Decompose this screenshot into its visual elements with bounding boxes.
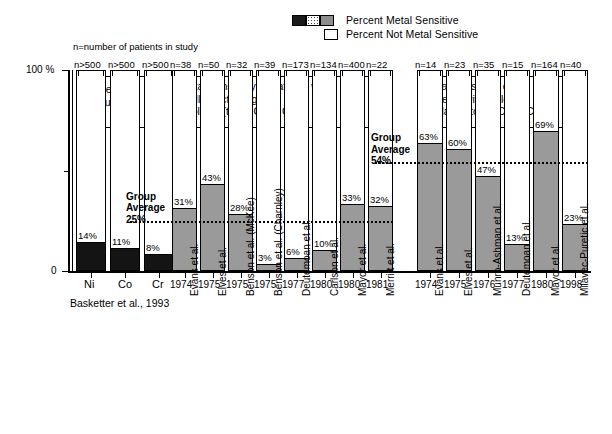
bar-column[interactable] [172, 70, 197, 271]
bar-value-label: 60% [448, 137, 467, 148]
x-author-label: Merritt et al. [385, 243, 396, 296]
group-average-line [130, 221, 393, 223]
bar-value-label: 8% [146, 242, 160, 253]
bar-n-tick [362, 70, 363, 76]
bar-value-label: 3% [258, 252, 272, 263]
bar-n-tick [78, 70, 79, 76]
bar-n-label: n=173 [282, 59, 309, 70]
x-author-label: Milavec-Puretic et al. [579, 203, 590, 296]
legend: Percent Metal Sensitive Percent Not Meta… [292, 14, 478, 42]
bar-n-tick [137, 70, 138, 76]
x-tick [325, 273, 326, 278]
group-average-label: Group Average 25% [126, 191, 165, 226]
bar-n-label: n=164 [531, 59, 558, 70]
bar-n-tick [506, 70, 507, 76]
bar-n-tick [174, 70, 175, 76]
y-axis-top-label: 100 % [26, 64, 54, 75]
bar-fill-sensitive [77, 242, 105, 270]
x-tick [488, 273, 489, 278]
bar-n-label: n=400 [338, 59, 365, 70]
bar-fill-sensitive [111, 248, 139, 270]
bar-n-tick [448, 70, 449, 76]
legend-swatches-sensitive [292, 15, 338, 26]
legend-swatches-not-sensitive [292, 29, 338, 40]
bar-value-label: 63% [419, 131, 438, 142]
x-tick [269, 273, 270, 278]
bar-column[interactable] [144, 70, 174, 271]
bar-n-tick [535, 70, 536, 76]
bar-n-tick [440, 70, 441, 76]
bar-n-label: n=15 [502, 59, 523, 70]
bar-n-label: n>500 [74, 59, 101, 70]
y-tick-100 [62, 70, 69, 71]
x-tick [241, 273, 242, 278]
legend-swatch-white-icon [324, 29, 338, 40]
y-tick-50 [64, 171, 69, 172]
bar-n-tick [202, 70, 203, 76]
bar-n-label: n=40 [560, 59, 581, 70]
bar-n-tick [222, 70, 223, 76]
x-category-label: Cr [152, 278, 164, 290]
bar-n-label: n=39 [254, 59, 275, 70]
bar-n-tick [112, 70, 113, 76]
bar-n-tick [286, 70, 287, 76]
bar-value-label: 31% [174, 196, 193, 207]
bar-n-label: n=35 [473, 59, 494, 70]
bar-n-tick [370, 70, 371, 76]
y-axis-line-inner [72, 70, 73, 272]
x-tick [459, 273, 460, 278]
bar-n-tick [258, 70, 259, 76]
bar-n-label: n=32 [226, 59, 247, 70]
legend-label-sensitive: Percent Metal Sensitive [346, 14, 459, 26]
bar-column[interactable] [340, 70, 365, 271]
x-tick [430, 273, 431, 278]
bar-column[interactable] [446, 70, 472, 271]
bar-n-tick [556, 70, 557, 76]
bar-value-label: 43% [202, 172, 221, 183]
x-tick [297, 273, 298, 278]
bar-value-label: 32% [370, 194, 389, 205]
x-category-label: Ni [84, 278, 94, 290]
bar-n-label: n=22 [366, 59, 387, 70]
bar-n-tick [419, 70, 420, 76]
bar-n-tick [314, 70, 315, 76]
bar-n-tick [342, 70, 343, 76]
x-tick [213, 273, 214, 278]
chart-figure: Percent Metal Sensitive Percent Not Meta… [0, 0, 612, 434]
group-source-label: Basketter et al., 1993 [70, 297, 169, 309]
legend-row-not-sensitive: Percent Not Metal Sensitive [292, 28, 478, 40]
bar-n-tick [477, 70, 478, 76]
bar-n-label: n=14 [415, 59, 436, 70]
legend-swatch-gray-icon [320, 15, 334, 26]
bar-n-label: n=50 [198, 59, 219, 70]
note-n-definition: n=number of patients in study [73, 41, 198, 52]
bar-n-tick [334, 70, 335, 76]
bar-column[interactable] [368, 70, 393, 271]
legend-swatch-dotted-icon [306, 15, 320, 26]
bar-value-label: 69% [535, 119, 554, 130]
bar-n-tick [146, 70, 147, 76]
group-average-label: Group Average 54% [371, 132, 410, 167]
bar-column[interactable] [417, 70, 443, 271]
bar-n-label: n=134 [310, 59, 337, 70]
bar-n-label: n=38 [170, 59, 191, 70]
legend-label-not-sensitive: Percent Not Metal Sensitive [346, 28, 478, 40]
bar-value-label: 33% [342, 192, 361, 203]
bar-n-tick [527, 70, 528, 76]
x-tick [575, 273, 576, 278]
x-tick [546, 273, 547, 278]
x-tick [185, 273, 186, 278]
legend-row-sensitive: Percent Metal Sensitive [292, 14, 478, 26]
bar-column[interactable] [200, 70, 225, 271]
bar-n-tick [230, 70, 231, 76]
bar-column[interactable] [533, 70, 559, 271]
x-category-label: Co [118, 278, 132, 290]
bar-n-tick [469, 70, 470, 76]
bar-value-label: 11% [112, 236, 130, 247]
bar-fill-sensitive [145, 254, 173, 270]
bar-value-label: 14% [78, 230, 97, 241]
legend-swatch-black-icon [292, 15, 306, 26]
bar-n-tick [498, 70, 499, 76]
x-tick [381, 273, 382, 278]
bar-value-label: 47% [477, 164, 496, 175]
